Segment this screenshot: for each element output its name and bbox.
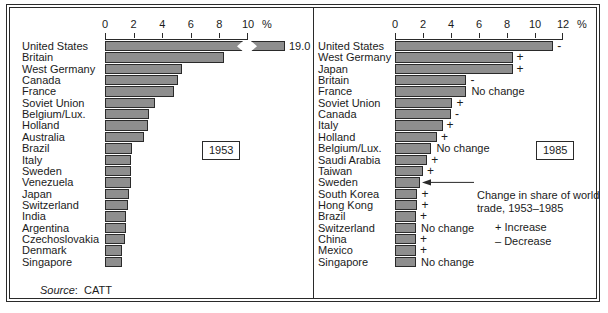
callout-text-line-2: trade, 1953–1985	[477, 201, 563, 215]
bar	[105, 64, 182, 74]
bar	[105, 143, 132, 153]
bar	[105, 109, 149, 119]
source-note: Source: CATT	[40, 284, 112, 297]
bars-area-left: United States19.0BritainWest GermanyCana…	[10, 8, 313, 298]
bar	[105, 234, 125, 244]
bar	[105, 155, 131, 165]
bar	[105, 75, 178, 85]
bar	[105, 120, 148, 130]
callout-text-line-1: Change in share of world	[477, 188, 599, 202]
legend-decrease: – Decrease	[495, 234, 551, 248]
source-value: CATT	[84, 284, 112, 296]
bar	[105, 132, 144, 142]
bar	[105, 177, 131, 187]
bar	[105, 189, 129, 199]
bar	[105, 166, 131, 176]
bar	[105, 223, 126, 233]
legend-increase: + Increase	[495, 220, 547, 234]
category-label: Singapore	[22, 256, 101, 269]
bar	[105, 98, 155, 108]
bar	[105, 86, 174, 96]
bar	[105, 211, 126, 221]
bar	[105, 200, 128, 210]
source-colon: :	[75, 284, 84, 296]
bar	[105, 41, 243, 51]
source-label: Source	[40, 284, 75, 296]
chart-panel-1985: 024681012% United States-West Germany+Ja…	[314, 8, 596, 298]
bar	[105, 257, 122, 267]
callout-leader-line	[314, 8, 608, 306]
bar	[105, 52, 224, 62]
bar-value-label: 19.0	[289, 40, 310, 53]
figure-frame: 0246810% United States19.0BritainWest Ge…	[6, 4, 600, 302]
figure-inner-frame: 0246810% United States19.0BritainWest Ge…	[9, 7, 597, 299]
year-badge-1953: 1953	[202, 141, 240, 160]
bar	[105, 245, 122, 255]
bar-break-segment	[251, 41, 285, 51]
chart-panel-1953: 0246810% United States19.0BritainWest Ge…	[10, 8, 313, 298]
